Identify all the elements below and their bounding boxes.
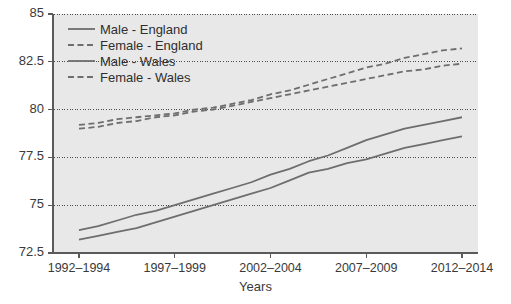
y-axis-tick-label: 72.5 — [2, 244, 44, 259]
y-axis-tick-label: 75 — [2, 196, 44, 211]
y-axis-tick-label: 80 — [2, 101, 44, 116]
y-axis-tick-label: 82.5 — [2, 53, 44, 68]
x-axis-ticks — [79, 253, 462, 258]
legend-item-label-1: Female - England — [100, 38, 203, 53]
y-axis-tick-label: 77.5 — [2, 148, 44, 163]
x-axis-tick-label: 2012–2014 — [402, 261, 511, 275]
legend-item-label-2: Male - Wales — [100, 54, 175, 69]
chart-canvas — [0, 0, 511, 304]
legend-item-label-0: Male - England — [100, 22, 187, 37]
legend-item-label-3: Female - Wales — [100, 70, 191, 85]
life-expectancy-line-chart: 72.57577.58082.585 1992–19941997–1999200… — [0, 0, 511, 304]
x-axis-title: Years — [0, 279, 511, 294]
y-axis-ticks — [48, 14, 53, 253]
y-axis-tick-label: 85 — [2, 5, 44, 20]
